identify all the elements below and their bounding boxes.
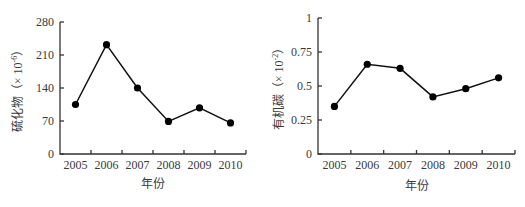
sulfide-chart: 070140210280200520062007200820092010年份硫化… <box>10 15 246 191</box>
x-tick-label: 2010 <box>219 158 243 172</box>
data-point-marker <box>103 41 110 48</box>
x-tick-label: 2006 <box>355 158 379 172</box>
x-tick-label: 2007 <box>126 158 150 172</box>
series-line <box>76 45 231 123</box>
x-tick-label: 2008 <box>157 158 181 172</box>
chart-canvas: 070140210280200520062007200820092010年份硫化… <box>0 0 525 207</box>
data-point-marker <box>72 101 79 108</box>
y-tick-label: 1 <box>306 11 312 25</box>
y-tick-label: 140 <box>36 81 54 95</box>
y-tick-label: 0.75 <box>291 45 312 59</box>
y-tick-label: 210 <box>36 48 54 62</box>
data-point-marker <box>364 61 371 68</box>
y-tick-label: 0 <box>306 147 312 161</box>
x-tick-label: 2009 <box>454 158 478 172</box>
y-tick-label: 70 <box>42 114 54 128</box>
data-point-marker <box>331 103 338 110</box>
x-tick-label: 2010 <box>487 158 511 172</box>
data-point-marker <box>429 93 436 100</box>
x-tick-label: 2008 <box>421 158 445 172</box>
data-point-marker <box>134 84 141 91</box>
y-tick-label: 0.5 <box>297 79 312 93</box>
y-tick-label: 280 <box>36 15 54 29</box>
y-axis-title: 有机碳（× 10-2） <box>271 42 286 130</box>
y-axis-title: 硫化物（× 10-6） <box>10 44 25 132</box>
series-line <box>334 64 498 106</box>
x-tick-label: 2006 <box>95 158 119 172</box>
x-tick-label: 2009 <box>188 158 212 172</box>
data-point-marker <box>165 118 172 125</box>
data-point-marker <box>396 65 403 72</box>
x-tick-label: 2007 <box>388 158 412 172</box>
axes <box>318 18 515 154</box>
y-tick-label: 0 <box>48 147 54 161</box>
x-tick-label: 2005 <box>64 158 88 172</box>
x-axis-title: 年份 <box>405 179 429 193</box>
x-axis-title: 年份 <box>141 177 165 191</box>
x-tick-label: 2005 <box>322 158 346 172</box>
y-tick-label: 0.25 <box>291 113 312 127</box>
axes <box>60 22 246 154</box>
data-point-marker <box>227 119 234 126</box>
data-point-marker <box>462 85 469 92</box>
data-point-marker <box>196 104 203 111</box>
organic-carbon-chart: 00.250.50.751200520062007200820092010年份有… <box>271 11 515 193</box>
data-point-marker <box>495 74 502 81</box>
